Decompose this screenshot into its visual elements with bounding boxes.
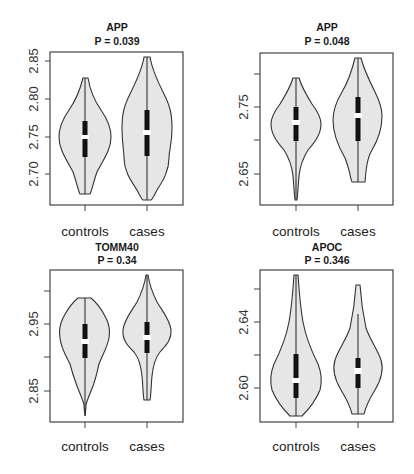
violin-controls — [271, 78, 321, 200]
violin-controls — [59, 78, 111, 194]
panel-pvalue: P = 0.346 — [304, 254, 349, 266]
y-axis: 2.85 2.80 2.75 2.70 — [26, 48, 50, 186]
panel-pvalue: P = 0.039 — [94, 35, 139, 47]
panel-title: APP — [316, 21, 338, 33]
y-axis: 2.75 2.65 — [236, 74, 260, 187]
y-tick-label: 2.75 — [26, 124, 41, 149]
median-marker — [354, 113, 362, 118]
panel-apoc: APOC P = 0.346 2.64 2.60 controls cases — [236, 241, 393, 454]
x-axis: controls cases — [272, 422, 376, 454]
x-tick-label-cases: cases — [129, 224, 165, 239]
median-marker — [81, 339, 89, 344]
y-tick-label: 2.80 — [26, 86, 41, 111]
y-axis: 2.95 2.85 — [26, 291, 50, 404]
x-tick-label-cases: cases — [340, 439, 376, 454]
y-tick-label: 2.64 — [236, 309, 251, 334]
violin-cases — [122, 57, 172, 200]
panel-app-2: APP P = 0.048 2.75 2.65 controls cases — [236, 21, 393, 239]
median-marker — [354, 368, 362, 374]
panel-app-1: APP P = 0.039 2.85 2.80 2.75 2.70 contro… — [26, 21, 183, 239]
median-marker — [143, 335, 151, 340]
y-tick-label: 2.70 — [26, 161, 41, 186]
violin-controls — [59, 298, 109, 416]
violin-plot-figure: APP P = 0.039 2.85 2.80 2.75 2.70 contro… — [0, 0, 414, 474]
y-tick-label: 2.65 — [236, 161, 251, 186]
panel-title: APOC — [312, 241, 343, 253]
median-marker — [143, 130, 151, 135]
x-tick-label-controls: controls — [61, 224, 109, 239]
panel-pvalue: P = 0.34 — [97, 254, 136, 266]
y-axis: 2.64 2.60 — [236, 289, 260, 401]
x-axis: controls cases — [272, 205, 376, 239]
violin-cases — [334, 285, 382, 414]
x-tick-label-controls: controls — [272, 439, 320, 454]
y-tick-label: 2.75 — [236, 94, 251, 119]
y-tick-label: 2.95 — [26, 311, 41, 336]
y-tick-label: 2.85 — [26, 378, 41, 403]
median-marker — [292, 378, 300, 383]
panel-tomm40: TOMM40 P = 0.34 2.95 2.85 controls cases — [26, 241, 183, 454]
median-marker — [81, 135, 89, 139]
x-tick-label-cases: cases — [129, 439, 165, 454]
panel-title: APP — [106, 21, 128, 33]
violin-controls — [271, 275, 322, 416]
x-tick-label-cases: cases — [340, 224, 376, 239]
x-tick-label-controls: controls — [61, 439, 109, 454]
y-tick-label: 2.60 — [236, 375, 251, 400]
median-marker — [292, 120, 300, 125]
y-tick-label: 2.85 — [26, 48, 41, 73]
x-axis: controls cases — [61, 205, 165, 239]
violin-cases — [123, 275, 171, 400]
panel-title: TOMM40 — [95, 241, 139, 253]
x-tick-label-controls: controls — [272, 224, 320, 239]
panel-pvalue: P = 0.048 — [304, 35, 349, 47]
violin-cases — [333, 58, 382, 182]
x-axis: controls cases — [61, 422, 165, 454]
